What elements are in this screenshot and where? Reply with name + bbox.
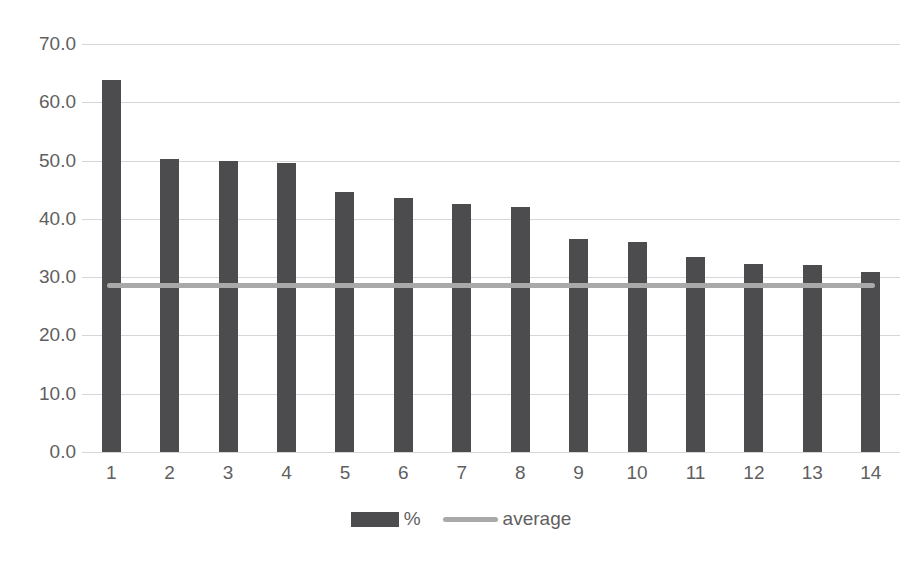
x-axis-label-9: 9	[557, 462, 601, 484]
y-axis-label-70.0: 70.0	[4, 33, 76, 55]
bar-category-14	[861, 272, 880, 452]
x-axis-label-13: 13	[790, 462, 834, 484]
legend-item-average: average	[443, 508, 572, 530]
y-axis-label-50.0: 50.0	[4, 150, 76, 172]
legend: % average	[0, 508, 922, 530]
bar-chart: 0.010.020.030.040.050.060.070.0123456789…	[0, 0, 922, 561]
bar-category-13	[803, 265, 822, 452]
gridline-40.0	[82, 219, 900, 220]
x-axis-label-7: 7	[440, 462, 484, 484]
y-axis-label-30.0: 30.0	[4, 266, 76, 288]
x-axis-label-11: 11	[674, 462, 718, 484]
x-axis-label-2: 2	[148, 462, 192, 484]
x-axis-label-6: 6	[381, 462, 425, 484]
legend-line-swatch	[443, 517, 498, 522]
bar-category-4	[277, 163, 296, 452]
bar-category-3	[219, 161, 238, 452]
bar-category-10	[628, 242, 647, 452]
legend-bar-label: %	[404, 508, 421, 530]
gridline-30.0	[82, 277, 900, 278]
bar-category-6	[394, 198, 413, 452]
y-axis-label-40.0: 40.0	[4, 208, 76, 230]
gridline-0.0	[82, 452, 900, 453]
bar-category-8	[511, 207, 530, 452]
legend-bar-swatch	[351, 512, 399, 527]
x-axis-label-8: 8	[498, 462, 542, 484]
gridline-10.0	[82, 394, 900, 395]
x-axis-label-12: 12	[732, 462, 776, 484]
gridline-50.0	[82, 161, 900, 162]
legend-line-label: average	[503, 508, 572, 530]
y-axis-label-10.0: 10.0	[4, 383, 76, 405]
bar-category-12	[744, 264, 763, 452]
average-line	[107, 283, 875, 288]
bar-category-2	[160, 159, 179, 452]
gridline-70.0	[82, 44, 900, 45]
x-axis-label-14: 14	[849, 462, 893, 484]
x-axis-label-3: 3	[206, 462, 250, 484]
x-axis-label-1: 1	[89, 462, 133, 484]
gridline-20.0	[82, 335, 900, 336]
y-axis-label-20.0: 20.0	[4, 324, 76, 346]
bar-category-9	[569, 239, 588, 452]
gridline-60.0	[82, 102, 900, 103]
bar-category-7	[452, 204, 471, 452]
bar-category-1	[102, 80, 121, 452]
y-axis-label-60.0: 60.0	[4, 91, 76, 113]
y-axis-label-0.0: 0.0	[4, 441, 76, 463]
bar-category-5	[335, 192, 354, 452]
legend-item-percent: %	[351, 508, 421, 530]
x-axis-label-10: 10	[615, 462, 659, 484]
x-axis-label-5: 5	[323, 462, 367, 484]
x-axis-label-4: 4	[265, 462, 309, 484]
